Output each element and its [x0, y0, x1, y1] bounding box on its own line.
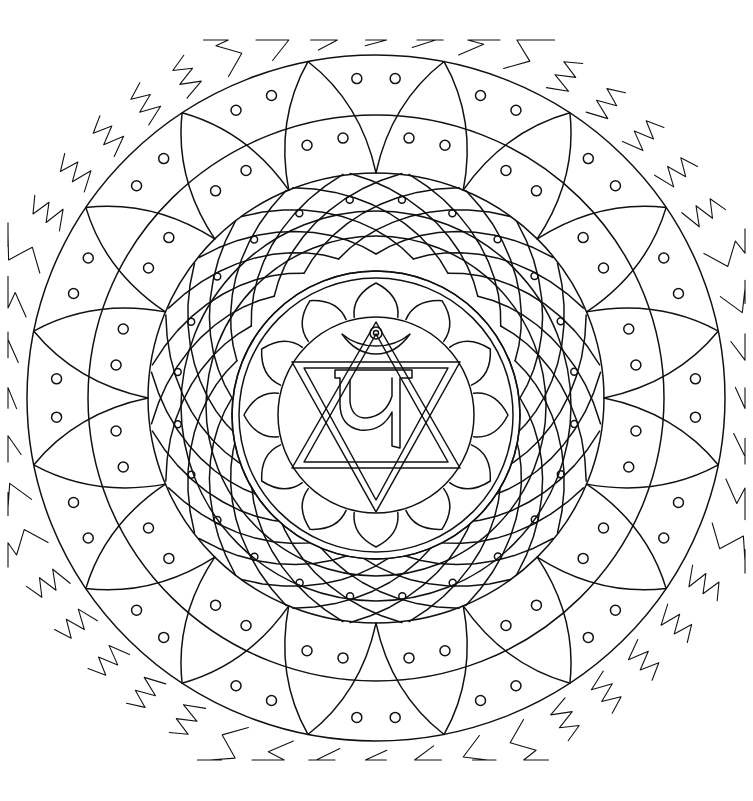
mandala-artwork: यं	[0, 0, 753, 801]
